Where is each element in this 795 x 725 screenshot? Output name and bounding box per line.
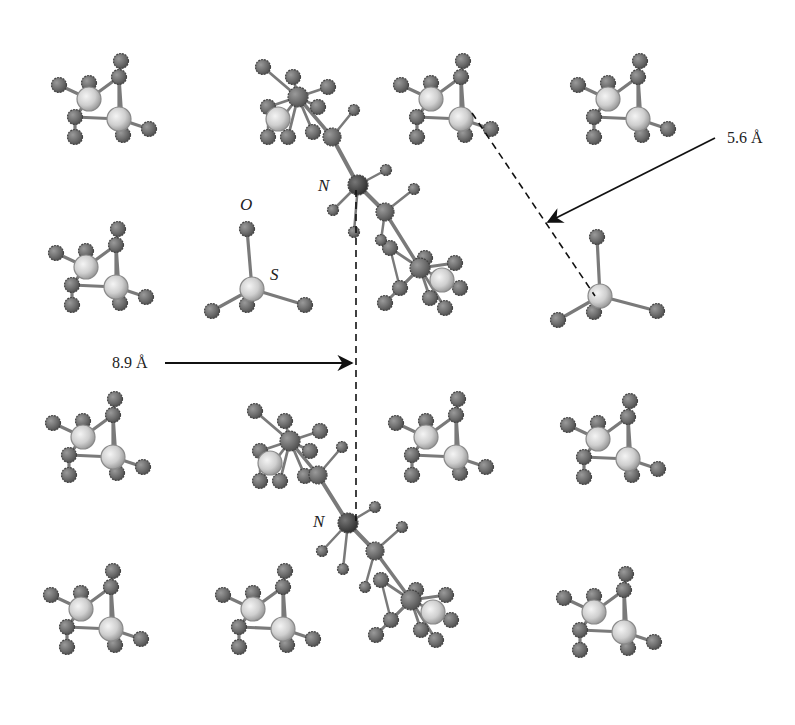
oxygen-atom <box>49 246 64 261</box>
oxygen-atom <box>273 474 288 489</box>
structure-canvas: N N O S 8.9 Å 5.6 Å <box>0 0 795 725</box>
oxygen-atom <box>337 442 348 453</box>
oxygen-atom <box>617 583 632 598</box>
oxygen-atom <box>253 474 268 489</box>
sulfur-atom <box>71 425 95 449</box>
oxygen-atom <box>651 462 666 477</box>
oxygen-atom <box>439 588 454 603</box>
sulfur-atom <box>626 107 650 131</box>
oxygen-atom <box>551 313 566 328</box>
sulfur-atom <box>419 87 443 111</box>
oxygen-atom <box>587 110 602 125</box>
sulfur-atom <box>430 268 454 292</box>
oxygen-atom <box>106 564 121 579</box>
nitrogen-label-top: N <box>317 176 331 195</box>
oxygen-atom <box>60 640 75 655</box>
nitrogen-atom <box>338 513 358 533</box>
sulfur-atom <box>99 617 123 641</box>
oxygen-atom <box>429 633 444 648</box>
oxygen-atom <box>454 70 469 85</box>
oxygen-atom <box>142 122 157 137</box>
oxygen-atom <box>573 643 588 658</box>
oxygen-atom <box>349 227 360 238</box>
oxygen-atom <box>378 296 393 311</box>
oxygen-atom <box>577 470 592 485</box>
oxygen-atom <box>394 78 409 93</box>
oxygen-atom <box>104 580 119 595</box>
oxygen-atom <box>256 60 271 75</box>
oxygen-atom <box>321 80 336 95</box>
sulfur-atom <box>240 277 264 301</box>
oxygen-atom <box>317 546 328 557</box>
oxygen-atom <box>376 203 394 221</box>
oxygen-atom <box>384 613 399 628</box>
sulfur-atom <box>616 447 640 471</box>
nitrogen-label-bottom: N <box>312 512 326 531</box>
oxygen-atom <box>306 125 321 140</box>
oxygen-atom <box>108 392 123 407</box>
oxygen-atom <box>650 304 665 319</box>
sulfur-atom <box>588 284 612 308</box>
oxygen-atom <box>444 613 459 628</box>
oxygen-atom <box>68 130 83 145</box>
oxygen-atom <box>62 448 77 463</box>
oxygen-atom <box>393 281 408 296</box>
oxygen-atom <box>366 542 384 560</box>
oxygen-atom <box>374 573 389 588</box>
oxygen-atom <box>376 235 387 246</box>
sulfur-atom <box>104 275 128 299</box>
oxygen-atom <box>240 222 255 237</box>
oxygen-atom <box>309 466 327 484</box>
oxygen-atom <box>410 258 430 278</box>
oxygen-atom <box>306 632 321 647</box>
oxygen-atom <box>661 122 676 137</box>
oxygen-atom <box>261 130 276 145</box>
oxygen-atom <box>438 301 453 316</box>
oxygen-atom <box>134 632 149 647</box>
oxygen-atom <box>587 130 602 145</box>
oxygen-atom <box>621 410 636 425</box>
oxygen-atom <box>479 460 494 475</box>
oxygen-atom <box>205 304 220 319</box>
oxygen-atom <box>451 392 466 407</box>
sulfur-atom <box>69 597 93 621</box>
oxygen-atom <box>60 620 75 635</box>
sulfur-atom <box>101 445 125 469</box>
sulfur-atom <box>241 597 265 621</box>
oxygen-atom <box>44 588 59 603</box>
oxygen-atom <box>360 582 371 593</box>
oxygen-atom <box>109 238 124 253</box>
oxygen-atom <box>577 450 592 465</box>
oxygen-atom <box>370 502 381 513</box>
nitrogen-atom <box>348 175 368 195</box>
oxygen-atom <box>561 418 576 433</box>
oxygen-atom <box>369 628 384 643</box>
oxygen-atom <box>286 70 301 85</box>
sulfur-atom <box>107 107 131 131</box>
oxygen-atom <box>216 588 231 603</box>
sulfate-distance-dashed-line <box>472 113 595 296</box>
oxygen-atom <box>633 54 648 69</box>
oxygen-atom <box>298 298 313 313</box>
sulfur-atom <box>414 425 438 449</box>
sulfur-atom <box>421 600 445 624</box>
oxygen-atom <box>111 222 126 237</box>
oxygen-atom <box>328 205 339 216</box>
oxygen-atom <box>389 416 404 431</box>
sulfur-atom <box>612 620 636 644</box>
sulfur-atom <box>271 617 295 641</box>
oxygen-atom <box>313 424 328 439</box>
oxygen-atom <box>405 448 420 463</box>
oxygen-atom <box>232 620 247 635</box>
sulfur-atom <box>586 427 610 451</box>
oxygen-atom <box>303 444 318 459</box>
oxygen-atom <box>136 460 151 475</box>
oxygen-atom <box>410 110 425 125</box>
oxygen-atom <box>62 468 77 483</box>
oxygen-atom <box>448 256 463 271</box>
oxygen-atom <box>139 290 154 305</box>
oxygen-atom <box>288 87 308 107</box>
oxygen-atom <box>112 70 127 85</box>
oxygen-atom <box>349 105 360 116</box>
oxygen-atom <box>248 404 263 419</box>
